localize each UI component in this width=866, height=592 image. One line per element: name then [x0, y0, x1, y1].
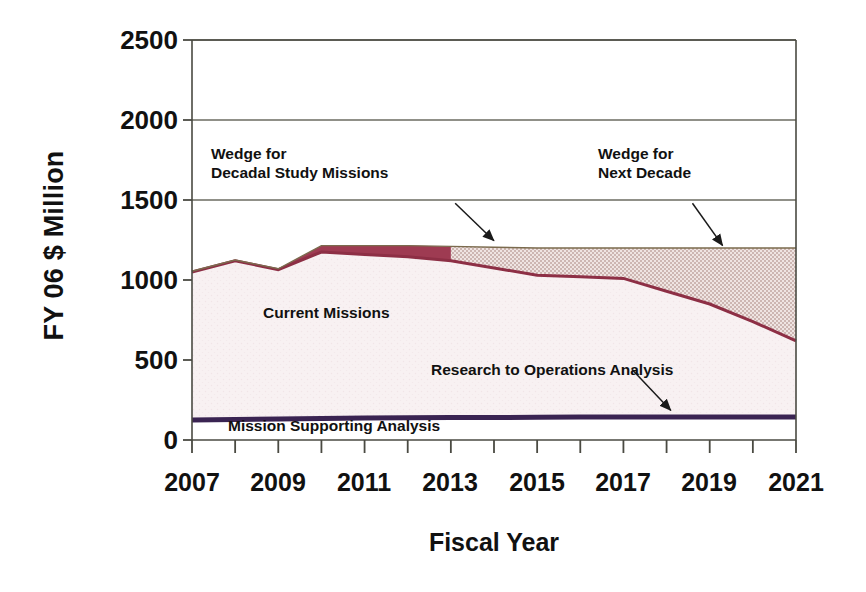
- x-tick-label: 2007: [152, 468, 232, 497]
- annotation-line-1: Wedge for: [211, 144, 388, 163]
- chart-canvas: 2500 2000 1500 1000 500 0 FY 06 $ Millio…: [0, 0, 866, 592]
- x-tick-label: 2021: [756, 468, 836, 497]
- annotation-research-to-operations: Research to Operations Analysis: [431, 360, 673, 379]
- annotation-mission-supporting: Mission Supporting Analysis: [228, 416, 440, 435]
- annotation-next-decade-wedge: Wedge for Next Decade: [598, 144, 691, 183]
- x-tick-label: 2009: [238, 468, 318, 497]
- x-tick-label: 2015: [497, 468, 577, 497]
- annotation-decadal-wedge: Wedge for Decadal Study Missions: [211, 144, 388, 183]
- x-tick-label: 2019: [669, 468, 749, 497]
- x-axis-title: Fiscal Year: [192, 528, 796, 557]
- x-tick-label: 2013: [410, 468, 490, 497]
- annotation-line-2: Decadal Study Missions: [211, 163, 388, 182]
- annotation-current-missions: Current Missions: [263, 303, 390, 322]
- x-tick-label: 2011: [324, 468, 404, 497]
- series-areas: [192, 246, 796, 440]
- plot-svg: [0, 0, 866, 592]
- x-tick-label: 2017: [583, 468, 663, 497]
- annotation-line-1: Wedge for: [598, 144, 691, 163]
- annotation-line-2: Next Decade: [598, 163, 691, 182]
- x-axis-ticks: [192, 440, 796, 453]
